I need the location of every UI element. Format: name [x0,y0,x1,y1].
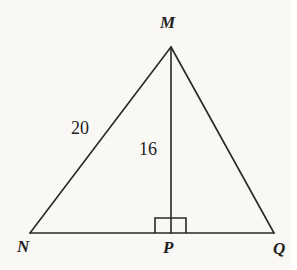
measure-label-altitude-MP: 16 [139,140,157,158]
segment-MQ [171,47,274,233]
vertex-label-P: P [163,239,173,256]
triangle-figure [0,0,297,270]
measure-label-side-MN: 20 [71,119,89,137]
vertex-label-N: N [17,238,29,255]
vertex-label-M: M [160,14,175,31]
vertex-label-Q: Q [273,240,285,257]
geometry-diagram-canvas: M N P Q 20 16 [0,0,297,270]
